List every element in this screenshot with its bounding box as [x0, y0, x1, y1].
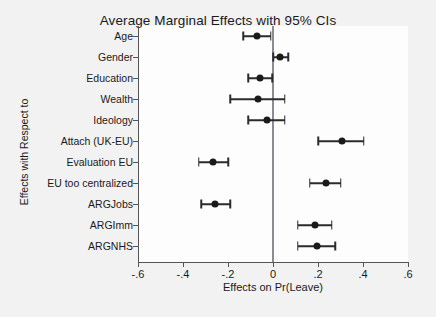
x-axis-tick: [318, 262, 319, 267]
confidence-interval-cap: [317, 137, 319, 146]
y-axis-tick: [133, 57, 138, 58]
y-axis-tick: [133, 204, 138, 205]
x-axis-tick: [273, 262, 274, 267]
point-estimate-marker: [254, 33, 261, 40]
x-axis-tick-label: -.4: [177, 268, 190, 280]
point-estimate-marker: [339, 138, 346, 145]
point-estimate-marker: [211, 201, 218, 208]
x-axis-tick-label: -.2: [222, 268, 235, 280]
y-axis-tick-label: ARGImm: [9, 219, 133, 231]
confidence-interval-cap: [242, 32, 244, 41]
y-axis-tick: [133, 246, 138, 247]
y-axis-tick-label: EU too centralized: [9, 177, 133, 189]
x-axis-tick-label: -.6: [132, 268, 145, 280]
x-axis-title: Effects on Pr(Leave): [138, 281, 408, 293]
confidence-interval-cap: [229, 95, 231, 104]
x-axis-tick-label: .6: [403, 268, 412, 280]
y-axis-tick: [133, 120, 138, 121]
point-estimate-marker: [254, 96, 261, 103]
confidence-interval-cap: [272, 53, 274, 62]
y-axis-tick-label: Education: [9, 72, 133, 84]
confidence-interval-cap: [247, 74, 249, 83]
confidence-interval-cap: [284, 116, 286, 125]
point-estimate-marker: [256, 75, 263, 82]
x-axis-tick: [228, 262, 229, 267]
point-estimate-marker: [209, 159, 216, 166]
confidence-interval-cap: [229, 200, 231, 209]
point-estimate-marker: [323, 180, 330, 187]
confidence-interval-cap: [227, 158, 229, 167]
y-axis-line: [138, 26, 139, 262]
x-axis-tick: [183, 262, 184, 267]
point-estimate-marker: [263, 117, 270, 124]
confidence-interval-cap: [331, 221, 333, 230]
confidence-interval-cap: [270, 32, 272, 41]
y-axis-tick: [133, 162, 138, 163]
x-axis-tick-label: 0: [270, 268, 276, 280]
confidence-interval-cap: [271, 74, 273, 83]
chart-title: Average Marginal Effects with 95% CIs: [0, 13, 436, 28]
point-estimate-marker: [276, 54, 283, 61]
y-axis-tick: [133, 99, 138, 100]
confidence-interval-cap: [297, 221, 299, 230]
confidence-interval-cap: [334, 242, 336, 251]
y-axis-tick-label: ARGJobs: [9, 198, 133, 210]
point-estimate-marker: [314, 243, 321, 250]
y-axis-tick: [133, 183, 138, 184]
plot-area: Average Marginal Effects with 95% CIs Ef…: [0, 0, 436, 317]
y-axis-tick-label: Age: [9, 30, 133, 42]
confidence-interval-cap: [287, 53, 289, 62]
x-axis-tick: [363, 262, 364, 267]
point-estimate-marker: [312, 222, 319, 229]
y-axis-tick: [133, 141, 138, 142]
x-axis-tick-label: .4: [358, 268, 367, 280]
y-axis-tick-label: Attach (UK-EU): [9, 135, 133, 147]
confidence-interval-cap: [363, 137, 365, 146]
chart-figure: Average Marginal Effects with 95% CIs Ef…: [0, 0, 436, 317]
confidence-interval-cap: [340, 179, 342, 188]
confidence-interval-cap: [247, 116, 249, 125]
y-axis-tick-label: ARGNHS: [9, 240, 133, 252]
y-axis-tick-label: Evaluation EU: [9, 156, 133, 168]
confidence-interval-cap: [198, 158, 200, 167]
y-axis-tick-label: Gender: [9, 51, 133, 63]
x-axis-tick: [138, 262, 139, 267]
confidence-interval-cap: [309, 179, 311, 188]
x-axis-tick: [408, 262, 409, 267]
y-axis-tick: [133, 225, 138, 226]
y-axis-tick: [133, 36, 138, 37]
y-axis-tick-label: Wealth: [9, 93, 133, 105]
x-axis-tick-label: .2: [313, 268, 322, 280]
confidence-interval-cap: [297, 242, 299, 251]
y-axis-tick-label: Ideology: [9, 114, 133, 126]
confidence-interval-cap: [200, 200, 202, 209]
y-axis-tick: [133, 78, 138, 79]
confidence-interval-cap: [284, 95, 286, 104]
